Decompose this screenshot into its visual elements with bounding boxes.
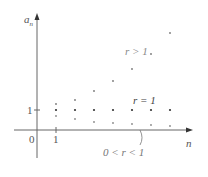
- label-r-eq-1: r = 1: [133, 95, 156, 106]
- x-axis-label: n: [186, 138, 192, 149]
- x-axis-arrow-icon: [186, 128, 193, 133]
- x-tick-label-1: 1: [53, 134, 59, 145]
- y-axis-arrow-icon: [35, 13, 40, 20]
- series-r-between: [55, 115, 171, 127]
- label-r-between: 0 < r < 1: [103, 147, 144, 158]
- series-r-eq-1: [55, 109, 171, 111]
- sequence-diagram: an n 0 1 1 r > 1 r = 1 0 < r < 1: [0, 0, 208, 177]
- annotation-pointer: [140, 130, 142, 145]
- origin-label: 0: [29, 134, 35, 145]
- label-r-gt-1: r > 1: [125, 46, 148, 57]
- y-axis-label: an: [24, 14, 33, 28]
- y-tick-label-1: 1: [27, 105, 33, 116]
